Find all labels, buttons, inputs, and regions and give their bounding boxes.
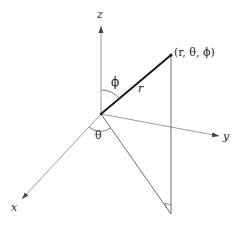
point-coordinates-label: (r, θ, ϕ) — [174, 47, 215, 58]
diagram-canvas — [0, 0, 241, 226]
y-axis — [101, 114, 219, 136]
theta-label: θ — [95, 130, 102, 141]
phi-label: ϕ — [111, 76, 119, 88]
y-axis-label: y — [223, 131, 229, 142]
point-marker — [169, 53, 172, 56]
x-axis-label: x — [11, 202, 17, 213]
x-axis — [22, 114, 101, 199]
phi-arc — [101, 90, 120, 99]
right-angle-marker — [166, 203, 172, 208]
spherical-coordinates-diagram: z y x (r, θ, ϕ) r ϕ θ — [0, 0, 241, 226]
radius-label: r — [138, 83, 143, 94]
z-axis-label: z — [97, 9, 103, 20]
origin-marker — [100, 113, 103, 116]
projection-line — [101, 114, 171, 214]
